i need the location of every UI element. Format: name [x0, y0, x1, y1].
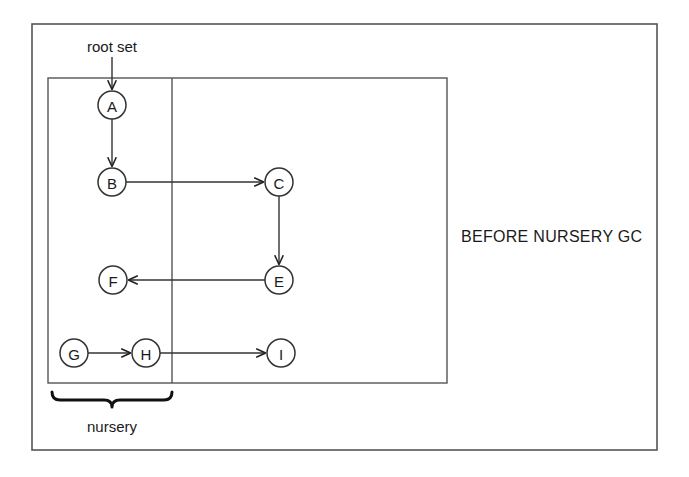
root-set-label: root set: [87, 38, 138, 55]
node-i-label: I: [279, 346, 283, 363]
node-c-label: C: [274, 175, 285, 192]
figure-caption: BEFORE NURSERY GC: [461, 228, 642, 245]
nursery-gc-diagram: A B C E F G H I: [0, 0, 689, 477]
node-c: C: [265, 168, 293, 196]
node-f-label: F: [108, 273, 117, 290]
node-h-label: H: [141, 346, 152, 363]
nursery-label: nursery: [87, 418, 138, 435]
figure-canvas: A B C E F G H I: [0, 0, 689, 477]
node-g: G: [60, 339, 88, 367]
node-b: B: [98, 168, 126, 196]
node-a: A: [98, 91, 126, 119]
node-i: I: [267, 339, 295, 367]
node-e: E: [265, 266, 293, 294]
node-b-label: B: [107, 175, 117, 192]
node-f: F: [99, 266, 127, 294]
node-h: H: [132, 339, 160, 367]
heap-box: [48, 78, 447, 383]
node-a-label: A: [107, 98, 117, 115]
nursery-brace: [52, 392, 172, 407]
node-g-label: G: [68, 346, 80, 363]
node-e-label: E: [274, 273, 284, 290]
